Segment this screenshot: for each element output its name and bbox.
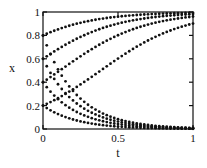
data-point: [188, 23, 191, 26]
data-point: [105, 25, 108, 28]
y-tick-label: 0.8: [26, 29, 40, 41]
data-point: [147, 13, 150, 16]
data-point: [165, 12, 168, 15]
data-point: [184, 24, 187, 27]
data-point: [192, 22, 195, 25]
data-point: [98, 28, 101, 31]
data-point: [165, 125, 168, 128]
data-point: [120, 15, 123, 18]
data-point: [45, 102, 48, 105]
data-point: [75, 119, 78, 122]
data-point: [57, 70, 60, 73]
data-point: [60, 74, 63, 77]
data-point: [120, 55, 123, 58]
data-point: [79, 21, 82, 24]
y-tick-label: 0.2: [26, 100, 40, 112]
data-point: [143, 17, 146, 20]
data-point: [90, 111, 93, 114]
data-point: [75, 37, 78, 40]
x-axis-label: t: [116, 146, 120, 160]
data-point: [135, 122, 138, 125]
data-point: [192, 11, 195, 14]
data-point: [154, 124, 157, 127]
data-point: [173, 28, 176, 31]
data-point: [72, 109, 75, 112]
data-point: [45, 86, 48, 89]
data-point: [94, 18, 97, 21]
data-point: [72, 23, 75, 26]
data-point: [162, 125, 165, 128]
data-point: [102, 124, 105, 127]
data-point: [102, 68, 105, 71]
data-point: [154, 21, 157, 24]
data-point: [60, 46, 63, 49]
data-point: [105, 114, 108, 117]
y-tick-label: 0.6: [26, 53, 40, 65]
data-point: [120, 32, 123, 35]
data-point: [143, 13, 146, 16]
data-point: [98, 70, 101, 73]
data-point: [169, 18, 172, 21]
data-point: [79, 120, 82, 123]
data-point: [173, 126, 176, 129]
data-point: [150, 13, 153, 16]
data-point: [98, 115, 101, 118]
data-point: [117, 118, 120, 121]
data-point: [105, 117, 108, 120]
data-point: [143, 24, 146, 27]
data-point: [68, 63, 71, 66]
data-point: [68, 117, 71, 120]
data-point: [68, 24, 71, 27]
data-point: [139, 18, 142, 21]
data-point: [158, 12, 161, 15]
data-point: [177, 26, 180, 29]
data-point: [53, 73, 56, 76]
data-point: [102, 17, 105, 20]
data-point: [109, 118, 112, 121]
data-point: [102, 27, 105, 30]
data-point: [45, 32, 48, 35]
data-point: [150, 16, 153, 19]
data-point: [128, 121, 131, 124]
data-point: [180, 126, 183, 129]
data-point: [139, 13, 142, 16]
data-point: [147, 39, 150, 42]
data-point: [113, 60, 116, 63]
data-point: [135, 14, 138, 17]
data-point: [117, 57, 120, 60]
data-point: [72, 60, 75, 63]
data-point: [180, 12, 183, 15]
data-point: [113, 16, 116, 19]
data-point: [109, 62, 112, 65]
data-point: [57, 68, 60, 71]
data-point: [135, 45, 138, 48]
data-point: [90, 31, 93, 34]
data-point: [113, 36, 116, 39]
data-point: [158, 15, 161, 18]
data-point: [117, 123, 120, 126]
data-point: [90, 106, 93, 109]
data-point: [64, 116, 67, 119]
data-point: [158, 125, 161, 128]
data-point: [68, 41, 71, 44]
data-point: [154, 35, 157, 38]
data-point: [105, 124, 108, 127]
data-point: [188, 16, 191, 19]
data-point: [165, 14, 168, 17]
data-point: [64, 92, 67, 95]
data-point: [188, 126, 191, 129]
data-point: [113, 23, 116, 26]
data-point: [109, 121, 112, 124]
data-point: [49, 109, 52, 112]
data-point: [113, 117, 116, 120]
data-point: [83, 21, 86, 24]
data-point: [90, 19, 93, 22]
data-point: [75, 94, 78, 97]
data-point: [162, 15, 165, 18]
data-point: [49, 31, 52, 34]
data-point: [94, 113, 97, 116]
x-tick-label: 1: [190, 132, 196, 144]
data-point: [79, 112, 82, 115]
data-point: [68, 90, 71, 93]
data-point: [60, 68, 63, 71]
